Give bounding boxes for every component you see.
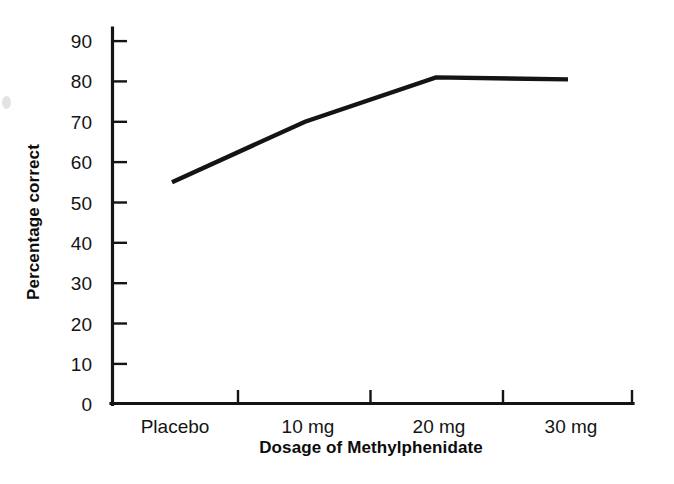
y-tick-label-50: 50 <box>48 194 92 213</box>
y-tick-label-20: 20 <box>48 315 92 334</box>
y-tick-label-80: 80 <box>48 72 92 91</box>
y-tick-label-40: 40 <box>48 234 92 253</box>
x-axis-ticks <box>238 390 632 402</box>
y-tick-label-70: 70 <box>48 113 92 132</box>
x-tick-label-20mg: 20 mg <box>413 417 466 436</box>
x-tick-label-placebo: Placebo <box>141 417 210 436</box>
y-tick-label-60: 60 <box>48 153 92 172</box>
y-tick-label-10: 10 <box>48 355 92 374</box>
y-tick-label-0: 0 <box>48 395 92 414</box>
plot-area <box>0 0 674 484</box>
data-series-line <box>172 77 568 182</box>
y-tick-label-30: 30 <box>48 274 92 293</box>
x-tick-label-10mg: 10 mg <box>282 417 335 436</box>
y-axis-ticks <box>113 41 127 364</box>
x-tick-label-30mg: 30 mg <box>545 417 598 436</box>
y-tick-label-90: 90 <box>48 32 92 51</box>
x-axis-title: Dosage of Methylphenidate <box>259 439 483 456</box>
y-axis-title: Percentage correct <box>25 144 42 300</box>
figure-line-chart: 90 80 70 60 50 40 30 20 10 0 Placebo 10 … <box>0 0 674 484</box>
